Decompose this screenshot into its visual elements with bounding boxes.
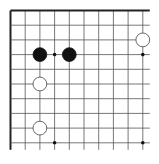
star-point xyxy=(141,53,145,57)
board-grid xyxy=(11,11,150,150)
black-stone[interactable] xyxy=(62,48,76,62)
white-stone[interactable] xyxy=(33,77,47,91)
white-stone[interactable] xyxy=(136,33,150,47)
star-point xyxy=(53,141,57,145)
star-point xyxy=(53,53,57,57)
go-board[interactable] xyxy=(0,0,159,164)
star-point xyxy=(141,141,145,145)
white-stone[interactable] xyxy=(33,121,47,135)
black-stone[interactable] xyxy=(33,48,47,62)
